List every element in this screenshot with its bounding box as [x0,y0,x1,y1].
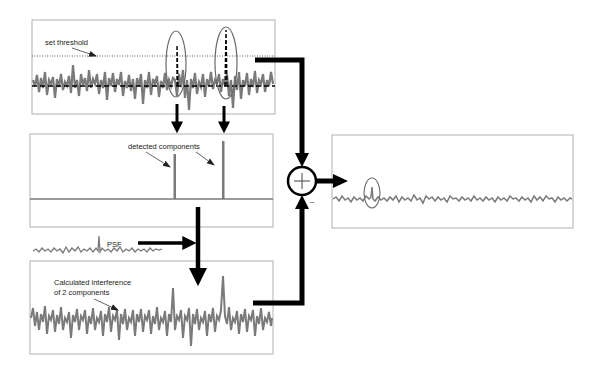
interference-panel: Calculated interference of 2 components [30,261,273,354]
minus-sign: – [310,197,315,206]
interference-label-line2: of 2 components [54,288,110,297]
diagram-canvas: set threshold detected components PSF Ca… [0,0,602,375]
component-spike-2 [222,141,225,199]
output-panel [332,135,573,228]
detected-components-panel: detected components [30,134,273,227]
psf-label: PSF [107,240,122,249]
detected-components-label: detected components [128,142,200,151]
interference-label-line1: Calculated interference [54,278,131,287]
set-threshold-label: set threshold [45,38,88,47]
input-signal-panel: set threshold [32,20,275,114]
arrow-top-head [295,153,309,167]
arrow-bottom-head [295,195,309,209]
component-spike-1 [174,154,177,199]
